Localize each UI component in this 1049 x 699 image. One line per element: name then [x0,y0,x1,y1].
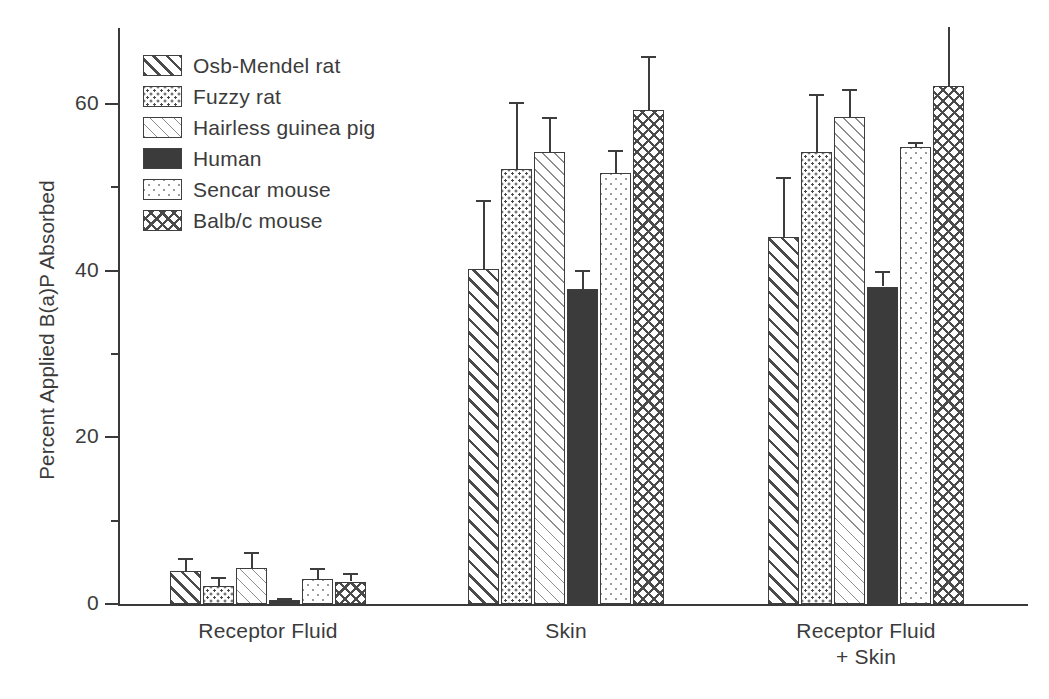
bar [170,571,201,604]
bar [633,110,664,604]
x-axis-group-label: Receptor Fluid [118,618,418,644]
error-bar-stem [648,56,650,110]
x-axis-group-label: Receptor Fluid+ Skin [716,618,1016,671]
y-axis-line [118,28,120,606]
bar [933,86,964,604]
legend-item[interactable]: Osb-Mendel rat [143,50,375,81]
error-bar-cap [244,552,259,554]
group-label-line-1: Receptor Fluid [118,618,418,644]
y-tick-major [105,103,118,105]
group-label-line-2: + Skin [716,644,1016,670]
y-tick-major [105,603,118,605]
y-axis-title: Percent Applied B(a)P Absorbed [35,120,59,540]
legend-item-label: Balb/c mouse [193,209,323,233]
bar [801,152,832,605]
x-axis-group-label: Skin [416,618,716,644]
error-bar-cap [875,271,890,273]
bar [867,287,898,605]
group-label-line-1: Skin [416,618,716,644]
legend-item-label: Fuzzy rat [193,85,281,109]
error-bar-stem [251,552,253,569]
error-bar-stem [615,150,617,173]
error-bar-cap [211,577,226,579]
bar [335,582,366,605]
bar [900,147,931,604]
error-bar-stem [816,94,818,152]
bar [236,568,267,604]
y-tick-label: 0 [55,591,99,615]
error-bar-cap [476,200,491,202]
error-bar-cap [178,558,193,560]
error-bar-cap [310,568,325,570]
y-tick-major [105,436,118,438]
legend-item[interactable]: Hairless guinea pig [143,112,375,143]
bar [768,237,799,604]
legend-swatch-icon [143,210,182,231]
bar [501,169,532,604]
legend-swatch-icon [143,55,182,76]
bar-chart: Percent Applied B(a)P Absorbed 0204060 O… [0,0,1049,699]
legend-item-label: Sencar mouse [193,178,331,202]
legend-item-label: Osb-Mendel rat [193,54,341,78]
legend-item[interactable]: Sencar mouse [143,174,375,205]
y-tick-major [105,270,118,272]
legend-swatch-icon [143,86,182,107]
bar [600,173,631,604]
error-bar-stem [783,177,785,238]
error-bar-cap [641,56,656,58]
bar [269,600,300,604]
error-bar-stem [948,27,950,85]
error-bar-cap [575,270,590,272]
chart-legend: Osb-Mendel ratFuzzy ratHairless guinea p… [143,50,375,236]
error-bar-cap [908,142,923,144]
error-bar-cap [277,598,292,600]
error-bar-stem [582,270,584,289]
error-bar-cap [809,94,824,96]
error-bar-cap [842,89,857,91]
legend-item[interactable]: Balb/c mouse [143,205,375,236]
bar [468,269,499,604]
error-bar-stem [882,271,884,287]
error-bar-cap [608,150,623,152]
error-bar-cap [776,177,791,179]
y-tick-minor [111,520,118,522]
error-bar-stem [549,117,551,152]
legend-item[interactable]: Human [143,143,375,174]
error-bar-cap [542,117,557,119]
y-tick-label: 40 [55,258,99,282]
bar [567,289,598,604]
legend-swatch-icon [143,148,182,169]
y-tick-minor [111,353,118,355]
y-tick-minor [111,186,118,188]
bar [534,152,565,605]
legend-item-label: Hairless guinea pig [193,116,375,140]
legend-item[interactable]: Fuzzy rat [143,81,375,112]
error-bar-cap [509,102,524,104]
bar [302,579,333,604]
y-tick-label: 60 [55,91,99,115]
legend-swatch-icon [143,179,182,200]
legend-swatch-icon [143,117,182,138]
error-bar-stem [849,89,851,117]
bar [834,117,865,604]
error-bar-stem [516,102,518,169]
error-bar-stem [483,200,485,269]
legend-item-label: Human [193,147,262,171]
x-axis-line [118,604,1028,606]
group-label-line-1: Receptor Fluid [716,618,1016,644]
error-bar-cap [343,573,358,575]
y-tick-label: 20 [55,424,99,448]
bar [203,586,234,604]
